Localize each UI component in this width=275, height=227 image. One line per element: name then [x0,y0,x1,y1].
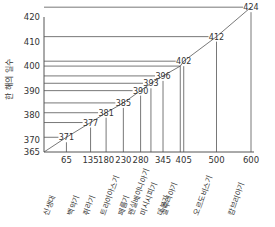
point-value-label: 396 [155,72,170,81]
x-tick-label: 180 [98,155,114,165]
x-tick-label: 345 [155,155,171,165]
y-tick-label: 390 [24,86,40,96]
chart-canvas: 365370380390400410420한 해의 일수371신생대377백악기… [0,0,275,227]
point-value-label: 412 [209,33,224,42]
y-tick-label: 370 [24,135,40,145]
point-value-label: 371 [59,133,74,142]
x-tick-label: 65 [61,155,72,165]
category-label: 신생대 [41,193,58,216]
x-tick-label: 405 [176,155,192,165]
point-value-label: 424 [243,3,258,12]
x-tick-label: 280 [132,155,148,165]
y-tick-label: 400 [24,61,40,71]
y-tick-label: 420 [24,12,40,22]
x-tick-label: 500 [208,155,224,165]
point-value-label: 402 [176,57,191,66]
point-value-label: 381 [98,109,113,118]
x-tick-label: 230 [115,155,131,165]
y-tick-label: 365 [24,147,40,157]
y-tick-label: 410 [24,37,40,47]
y-tick-label: 380 [24,110,40,120]
x-tick-label: 135 [82,155,98,165]
category-label: 쥐라기 [81,193,98,216]
point-value-label: 385 [116,99,131,108]
y-axis-title-text: 한 해의 일수 [4,59,14,99]
category-label: 백악기 [65,193,82,216]
category-label: 캄브리아기 [225,180,246,216]
x-tick-label: 600 [243,155,259,165]
days-per-year-chart: 365370380390400410420한 해의 일수371신생대377백악기… [0,0,275,227]
category-label: 오르도비스기 [192,174,215,217]
point-value-label: 377 [83,119,98,128]
